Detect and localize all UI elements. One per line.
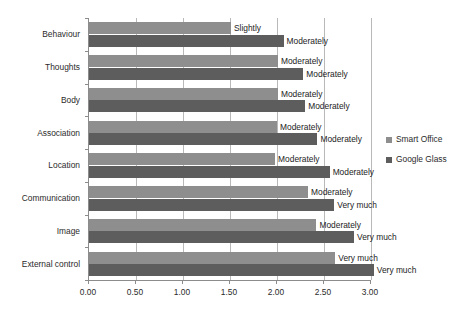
y-axis-category-label: External control (0, 259, 80, 269)
legend-item-google-glass[interactable]: Google Glass (386, 154, 472, 165)
bar-smart-office (89, 88, 278, 100)
bar-google-glass (89, 231, 354, 243)
x-axis-tick-label: 1.00 (162, 287, 202, 298)
bar-value-label: Very much (338, 253, 378, 263)
y-axis-tick (85, 84, 89, 85)
x-axis-tick (135, 280, 136, 284)
y-axis-tick (85, 116, 89, 117)
y-axis-category-label: Association (0, 128, 80, 138)
plot-area: SlightlyModeratelyModeratelyModeratelyMo… (88, 18, 371, 280)
legend-label: Smart Office (396, 134, 442, 145)
y-axis-category-label: Communication (0, 193, 80, 203)
bar-google-glass (89, 133, 317, 145)
bar-smart-office (89, 153, 275, 165)
bar-value-label: Moderately (278, 154, 319, 164)
y-axis-tick (85, 51, 89, 52)
bar-value-label: Moderately (287, 36, 328, 46)
bar-google-glass (89, 166, 330, 178)
x-axis-tick (182, 280, 183, 284)
bar-value-label: Moderately (311, 187, 352, 197)
bar-google-glass (89, 264, 374, 276)
x-axis-tick-label: 0.00 (68, 287, 108, 298)
bar-smart-office (89, 22, 231, 34)
x-axis-tick (88, 280, 89, 284)
bar-google-glass (89, 199, 334, 211)
bar-value-label: Moderately (281, 56, 322, 66)
bar-smart-office (89, 219, 316, 231)
legend-swatch-icon (386, 157, 392, 163)
y-axis-category-label: Image (0, 226, 80, 236)
y-axis-tick (85, 149, 89, 150)
bar-smart-office (89, 186, 308, 198)
bar-smart-office (89, 121, 277, 133)
bar-google-glass (89, 100, 305, 112)
bar-value-label: Moderately (333, 167, 374, 177)
bar-chart: BehaviourThoughtsBodyAssociationLocation… (0, 0, 473, 316)
legend-swatch-icon (386, 137, 392, 143)
y-axis-tick (85, 18, 89, 19)
x-axis-tick-label: 0.50 (115, 287, 155, 298)
bar-value-label: Moderately (320, 134, 361, 144)
bar-value-label: Very much (337, 200, 377, 210)
x-axis-tick-label: 2.50 (303, 287, 343, 298)
y-axis-category-label: Body (0, 95, 80, 105)
y-axis-tick (85, 182, 89, 183)
bar-value-label: Moderately (280, 122, 321, 132)
y-axis-category-labels: BehaviourThoughtsBodyAssociationLocation… (0, 18, 86, 280)
legend-label: Google Glass (396, 154, 447, 165)
y-axis-category-label: Location (0, 160, 80, 170)
y-axis-category-label: Behaviour (0, 29, 80, 39)
bar-google-glass (89, 35, 284, 47)
chart-legend: Smart OfficeGoogle Glass (386, 134, 472, 174)
bar-value-label: Moderately (308, 101, 349, 111)
x-axis-tick-label: 3.00 (350, 287, 390, 298)
bar-google-glass (89, 68, 303, 80)
x-axis-tick (323, 280, 324, 284)
x-axis-tick-label: 2.00 (256, 287, 296, 298)
x-axis-tick (370, 280, 371, 284)
legend-item-smart-office[interactable]: Smart Office (386, 134, 472, 145)
bar-value-label: Moderately (319, 220, 360, 230)
bar-smart-office (89, 252, 335, 264)
x-axis-tick (276, 280, 277, 284)
bar-value-label: Very much (377, 265, 417, 275)
x-axis-tick (229, 280, 230, 284)
y-axis-tick (85, 215, 89, 216)
y-axis-category-label: Thoughts (0, 62, 80, 72)
bar-value-label: Slightly (234, 23, 261, 33)
y-axis-tick (85, 247, 89, 248)
bar-value-label: Moderately (281, 89, 322, 99)
bar-value-label: Moderately (306, 69, 347, 79)
bar-smart-office (89, 55, 278, 67)
x-axis-tick-label: 1.50 (209, 287, 249, 298)
bar-value-label: Very much (357, 232, 397, 242)
